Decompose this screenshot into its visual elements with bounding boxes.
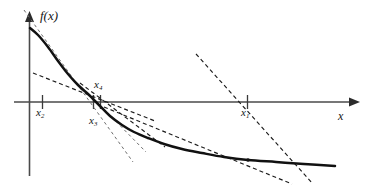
label-x1-sub: 1 xyxy=(246,112,249,119)
newton-method-diagram xyxy=(0,0,375,185)
label-x3: x3 xyxy=(89,115,97,128)
label-x4-sub: 4 xyxy=(99,84,102,91)
y-axis-arrowhead xyxy=(25,11,34,22)
label-x2: x2 xyxy=(36,107,44,120)
tangent-lines xyxy=(24,10,313,184)
x-axis-label: x xyxy=(338,110,343,122)
label-x2-sub: 2 xyxy=(41,112,44,119)
tangent-line-long-right xyxy=(104,107,292,184)
y-axis-label: f(x) xyxy=(40,9,58,22)
function-curve xyxy=(30,28,335,166)
figure-container: f(x) x x1 x2 x3 x4 xyxy=(0,0,375,185)
label-x3-sub: 3 xyxy=(94,120,97,127)
label-x4: x4 xyxy=(94,79,102,92)
x-axis-arrowhead xyxy=(349,98,360,107)
label-x1: x1 xyxy=(241,107,249,120)
y-axis xyxy=(25,11,34,176)
x-axis xyxy=(14,98,360,107)
curve-point-marker xyxy=(246,158,250,162)
